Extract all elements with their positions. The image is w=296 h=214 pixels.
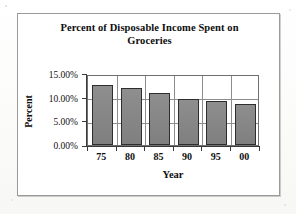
bar-00[interactable] [235,104,256,145]
bar-85[interactable] [149,93,170,145]
y-axis-title: Percent [21,84,35,140]
chart-title: Percent of Disposable Income Spent on Gr… [28,21,271,47]
bar-90[interactable] [178,99,199,145]
y-tick-label-15: 15.00% [30,70,78,80]
gridline-x-2 [145,76,146,145]
x-tick-mark-6 [259,147,260,151]
bar-95[interactable] [206,101,227,145]
bar-80[interactable] [121,88,142,146]
x-tick-label-80: 80 [116,151,144,162]
bar-75[interactable] [92,85,113,145]
gridline-x-4 [202,76,203,145]
chart-frame: Percent of Disposable Income Spent on Gr… [17,13,280,196]
y-axis-title-label: Percent [23,84,34,140]
y-tick-label-0: 0.00% [30,141,78,151]
y-tick-label-5: 5.00% [30,117,78,127]
gridline-x-1 [117,76,118,145]
x-tick-label-00: 00 [230,151,258,162]
x-axis-title: Year [87,169,259,180]
x-tick-label-90: 90 [173,151,201,162]
chart-title-line-1: Percent of Disposable Income Spent on [28,21,271,34]
x-tick-label-95: 95 [202,151,230,162]
plot-area [87,75,259,146]
x-tick-label-75: 75 [87,151,115,162]
y-tick-label-10: 10.00% [30,94,78,104]
gridline-x-3 [174,76,175,145]
chart-title-line-2: Groceries [28,34,271,47]
x-tick-label-85: 85 [145,151,173,162]
gridline-x-5 [231,76,232,145]
